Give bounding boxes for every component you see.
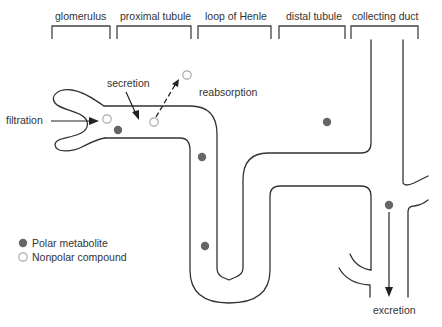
excretion-arrowhead — [385, 287, 393, 297]
filtration-arrowhead — [89, 117, 99, 125]
reabsorption-arrow — [156, 85, 175, 117]
collecting-duct-right-lower — [408, 200, 428, 297]
bracket-collecting-duct — [351, 26, 418, 39]
nonpolar-compound-marker — [103, 115, 111, 123]
reabsorption-label: reabsorption — [199, 86, 258, 98]
bracket-loop-of-henle — [198, 26, 271, 39]
reabsorption-arrowhead — [172, 79, 179, 87]
legend: Polar metabolite Nonpolar compound — [19, 237, 127, 263]
filtration-label: filtration — [6, 114, 43, 126]
segment-label-loop-of-henle: loop of Henle — [205, 10, 267, 22]
polar-metabolite-marker — [114, 126, 122, 134]
bracket-distal-tubule — [279, 26, 345, 39]
collecting-duct-right-wall — [403, 40, 428, 185]
polar-metabolite-marker — [201, 242, 209, 250]
legend-polar-marker — [19, 239, 27, 247]
nephron-canvas: glomerulus proximal tubule loop of Henle… — [0, 0, 442, 327]
polar-metabolite-marker — [323, 118, 331, 126]
secretion-label: secretion — [107, 77, 150, 89]
secretion-arrow — [126, 92, 136, 114]
segment-label-proximal-tubule: proximal tubule — [120, 10, 191, 22]
tubule-inner-wall — [105, 138, 371, 303]
bracket-glomerulus — [52, 26, 110, 39]
bracket-proximal-tubule — [117, 26, 191, 39]
legend-nonpolar-label: Nonpolar compound — [32, 251, 127, 263]
connecting-stub-lower — [339, 268, 370, 297]
segment-label-glomerulus: glomerulus — [55, 10, 106, 22]
polar-metabolite-marker — [198, 153, 206, 161]
legend-polar-label: Polar metabolite — [32, 237, 108, 249]
excretion-label: excretion — [373, 304, 416, 316]
legend-nonpolar-marker — [19, 253, 27, 261]
nonpolar-compound-marker — [183, 71, 191, 79]
nonpolar-compound-marker — [150, 118, 158, 126]
segment-label-distal-tubule: distal tubule — [286, 10, 342, 22]
tubule-outer-wall — [104, 40, 371, 280]
glomerulus-capsule — [54, 90, 105, 151]
connecting-stub-upper — [350, 254, 371, 270]
polar-metabolite-marker — [385, 201, 393, 209]
secretion-arrowhead — [132, 110, 139, 120]
segment-label-collecting-duct: collecting duct — [352, 10, 419, 22]
